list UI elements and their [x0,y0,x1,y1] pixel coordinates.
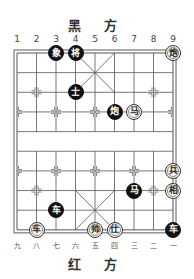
red-general-piece[interactable]: 帅 [87,222,103,238]
red-chariot-piece[interactable]: 车 [29,222,45,238]
file-label-bottom: 六 [68,240,84,250]
red-side-label: 红 方 [0,254,194,273]
file-label-bottom: 五 [87,240,103,250]
file-label-bottom: 七 [48,240,64,250]
file-label-bottom: 三 [126,240,142,250]
file-label-bottom: 八 [29,240,45,250]
red-elephant-piece[interactable]: 相 [165,183,181,199]
red-cannon-piece[interactable]: 炮 [165,45,181,61]
file-label-bottom: 四 [107,240,123,250]
file-label-bottom: 二 [146,240,162,250]
black-general-piece[interactable]: 将 [68,45,84,61]
red-horse-piece[interactable]: 马 [126,104,142,120]
red-advisor-piece[interactable]: 仕 [107,222,123,238]
black-horse-piece[interactable]: 马 [126,183,142,199]
black-cannon-piece[interactable]: 炮 [107,104,123,120]
black-advisor-piece[interactable]: 士 [68,84,84,100]
red-soldier-piece[interactable]: 兵 [165,163,181,179]
black-chariot-piece[interactable]: 车 [165,222,181,238]
black-elephant-piece[interactable]: 象 [48,45,64,61]
file-label-bottom: 一 [165,240,181,250]
file-label-bottom: 九 [9,240,25,250]
